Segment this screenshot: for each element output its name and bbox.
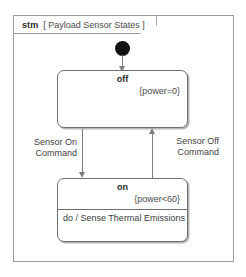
- state-off[interactable]: off {power=0}: [57, 70, 188, 128]
- transition-off-to-on-label: Sensor On Command: [24, 137, 77, 159]
- state-on[interactable]: on {power<60} do / Sense Thermal Emissio…: [57, 178, 188, 242]
- transition-on-to-off-label-line2: Command: [159, 147, 219, 158]
- transition-off-to-on-line: [82, 129, 83, 174]
- state-on-activity: do / Sense Thermal Emissions: [58, 210, 187, 224]
- state-on-title: on: [58, 182, 187, 193]
- state-on-constraint: {power<60}: [58, 194, 187, 205]
- state-off-title: off: [58, 74, 187, 85]
- transition-off-to-on-label-line2: Command: [24, 148, 77, 159]
- diagram-frame-label: stm [ Payload Sensor States ]: [13, 15, 157, 34]
- frame-kind-label: stm: [22, 20, 38, 30]
- state-off-constraint: {power=0}: [58, 86, 187, 97]
- frame-name-label: [ Payload Sensor States ]: [43, 20, 149, 30]
- transition-on-to-off-line: [152, 134, 153, 178]
- state-machine-diagram: stm [ Payload Sensor States ] off {power…: [0, 0, 246, 277]
- initial-pseudostate-icon: [115, 41, 130, 56]
- transition-on-to-off-arrow-icon: [149, 128, 155, 134]
- transition-on-to-off-label: Sensor Off Command: [159, 136, 219, 158]
- transition-off-to-on-label-line1: Sensor On: [24, 137, 77, 148]
- transition-on-to-off-label-line1: Sensor Off: [159, 136, 219, 147]
